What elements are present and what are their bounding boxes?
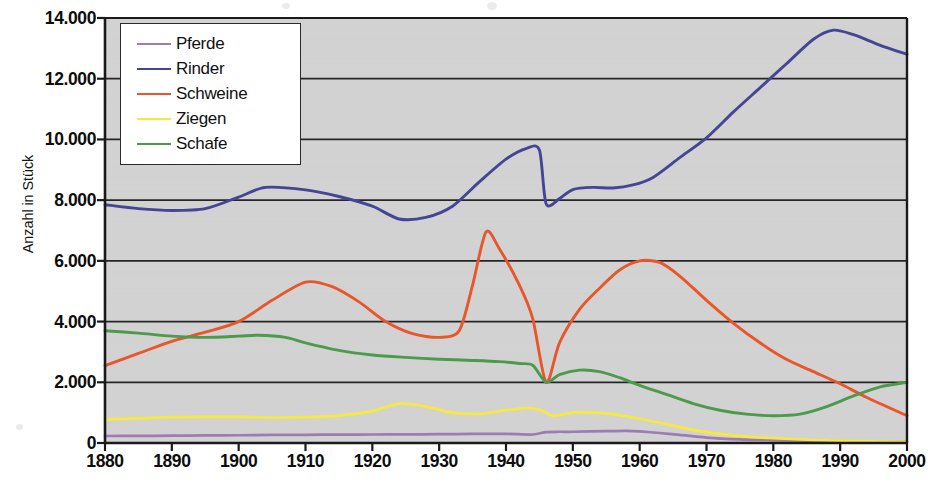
x-tick-label: 2000 <box>867 451 928 472</box>
legend-swatch-icon <box>137 68 171 70</box>
chart-legend: PferdeRinderSchweineZiegenSchafe <box>120 23 301 165</box>
x-axis-tick-labels: 1880189019001910192019301940195019601970… <box>0 451 928 483</box>
legend-swatch-icon <box>137 118 171 120</box>
legend-swatch-icon <box>137 143 171 145</box>
legend-item-schweine: Schweine <box>121 81 300 106</box>
legend-swatch-icon <box>137 43 171 45</box>
legend-item-ziegen: Ziegen <box>121 106 300 131</box>
legend-swatch-icon <box>137 93 171 95</box>
livestock-line-chart: Anzahl in Stück 02.0004.0006.0008.00010.… <box>0 0 928 483</box>
legend-item-rinder: Rinder <box>121 56 300 81</box>
legend-label: Schafe <box>176 135 227 152</box>
legend-item-schafe: Schafe <box>121 131 300 156</box>
legend-item-pferde: Pferde <box>121 31 300 56</box>
legend-label: Ziegen <box>176 110 226 127</box>
legend-label: Schweine <box>176 85 247 102</box>
legend-label: Rinder <box>176 60 224 77</box>
legend-label: Pferde <box>176 35 224 52</box>
